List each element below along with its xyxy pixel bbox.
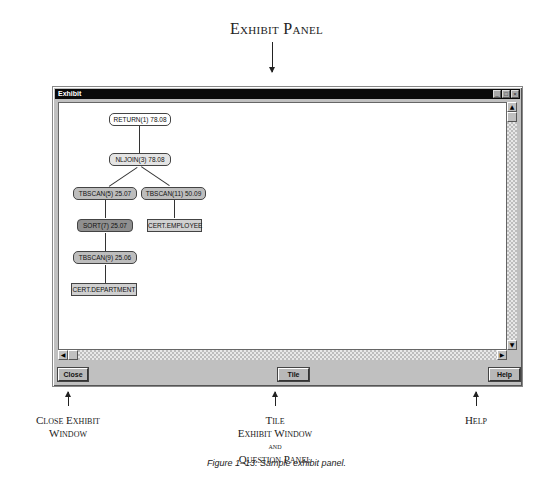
figure-caption: Figure 1–13: Sample exhibit panel. — [0, 458, 553, 468]
vertical-scroll-thumb[interactable] — [507, 112, 517, 122]
edge-department-tbscan9 — [105, 265, 106, 283]
help-annotation: Help — [446, 414, 506, 427]
close-annotation-arrow-icon — [68, 392, 69, 406]
minimize-button[interactable]: _ — [493, 90, 501, 98]
scroll-up-button[interactable]: ▲ — [507, 102, 517, 112]
close-button[interactable]: Close — [58, 368, 88, 381]
close-annotation: Close Exhibit Window — [18, 414, 118, 440]
plan-node-employee-table[interactable]: CERT.EMPLOYEE — [147, 219, 202, 232]
close-annotation-line-2: Window — [18, 427, 118, 440]
tile-annotation-line-3: and — [215, 440, 335, 453]
edge-employee-tbscan11 — [174, 200, 175, 218]
tile-button[interactable]: Tile — [278, 368, 309, 381]
edge-tbscan11-nljoin — [141, 166, 170, 186]
help-button[interactable]: Help — [489, 368, 520, 381]
exhibit-window: Exhibit _ □ × RETURN(1) 78.08 NLJOIN(3) … — [52, 86, 523, 387]
horizontal-scrollbar[interactable]: ◀ ▶ — [58, 350, 507, 360]
horizontal-scroll-thumb[interactable] — [68, 350, 78, 360]
annotation-arrow-icon — [272, 42, 273, 72]
help-annotation-arrow-icon — [476, 392, 477, 406]
plan-node-tbscan11[interactable]: TBSCAN(11) 50.09 — [141, 187, 206, 200]
plan-node-tbscan9[interactable]: TBSCAN(9) 25.06 — [73, 251, 137, 264]
tile-annotation-line-2: Exhibit Window — [215, 427, 335, 440]
scroll-left-button[interactable]: ◀ — [58, 350, 68, 360]
plan-node-department-table[interactable]: CERT.DEPARTMENT — [71, 283, 137, 296]
close-window-button[interactable]: × — [511, 90, 519, 98]
edge-tbscan5-nljoin — [109, 167, 138, 187]
scroll-down-button[interactable]: ▼ — [507, 340, 517, 350]
edge-tbscan9-sort — [105, 233, 106, 251]
scroll-corner — [507, 350, 517, 360]
scroll-right-button[interactable]: ▶ — [497, 350, 507, 360]
plan-node-return[interactable]: RETURN(1) 78.08 — [109, 113, 171, 126]
maximize-button[interactable]: □ — [502, 90, 510, 98]
tile-annotation-line-1: Tile — [215, 414, 335, 427]
vertical-scrollbar[interactable]: ▲ ▼ — [507, 102, 517, 350]
close-annotation-line-1: Close Exhibit — [18, 414, 118, 427]
title-bar[interactable]: Exhibit _ □ × — [55, 89, 520, 99]
plan-node-tbscan5[interactable]: TBSCAN(5) 25.07 — [73, 187, 137, 200]
tile-annotation-arrow-icon — [275, 392, 276, 406]
window-title: Exhibit — [58, 89, 81, 99]
exhibit-panel-annotation: Exhibit Panel — [0, 20, 553, 38]
plan-node-sort7[interactable]: SORT(7) 25.07 — [77, 219, 133, 232]
plan-node-nljoin[interactable]: NLJOIN(3) 78.08 — [109, 153, 171, 166]
edge-sort-tbscan5 — [105, 200, 106, 218]
edge-nljoin-return — [139, 126, 140, 153]
exhibit-canvas: RETURN(1) 78.08 NLJOIN(3) 78.08 TBSCAN(5… — [58, 102, 507, 350]
